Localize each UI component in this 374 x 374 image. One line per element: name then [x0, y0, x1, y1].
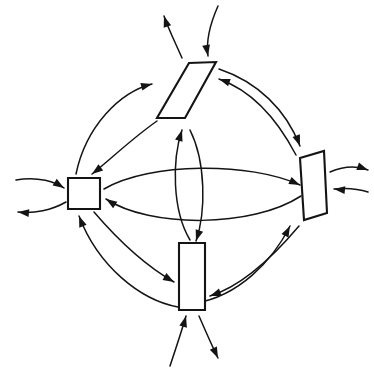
link-top-to-bottom	[190, 130, 203, 241]
nodes-group	[68, 62, 327, 310]
external-output-right-arrowhead	[356, 163, 368, 170]
diagram-canvas	[0, 0, 374, 374]
right-parallelogram-node[interactable]	[300, 151, 327, 220]
link-top-to-right-arrowhead	[293, 134, 300, 146]
link-left-to-top-arrowhead	[140, 83, 152, 91]
diagram-svg	[0, 0, 374, 374]
link-top-to-bottom-arrowhead	[196, 229, 203, 241]
link-right-to-top-arrowhead	[219, 79, 231, 86]
external-input-bottom-arrowhead	[179, 316, 187, 328]
link-bottom-to-right-arrowhead	[282, 226, 290, 238]
link-bottom-to-left	[79, 216, 178, 307]
link-top-to-right	[219, 69, 300, 146]
external-input-left-arrowhead	[53, 179, 64, 188]
link-left-to-bottom	[94, 212, 174, 282]
link-bottom-to-top-arrowhead	[175, 130, 182, 142]
link-left-to-top	[76, 84, 152, 174]
external-input-top-arrowhead	[202, 44, 210, 56]
external-output-left-arrowhead	[18, 209, 29, 217]
link-left-to-bottom-arrowhead	[163, 273, 174, 282]
external-output-bottom-arrowhead	[210, 346, 218, 358]
external-output-top-arrowhead	[164, 16, 171, 28]
link-left-to-right-arrowhead	[288, 177, 300, 185]
top-parallelogram-node[interactable]	[157, 62, 216, 118]
bottom-rectangle-node[interactable]	[179, 243, 205, 310]
left-square-node[interactable]	[68, 178, 100, 209]
link-bottom-to-left-arrowhead	[79, 216, 87, 228]
link-right-to-bottom-arrowhead	[210, 289, 222, 296]
link-bottom-to-right	[196, 226, 290, 303]
link-right-to-bottom	[210, 226, 299, 296]
external-input-right-arrowhead	[334, 186, 345, 194]
link-bottom-to-top	[175, 130, 190, 240]
link-right-to-left-arrowhead	[106, 199, 117, 208]
link-top-to-left	[92, 121, 157, 174]
